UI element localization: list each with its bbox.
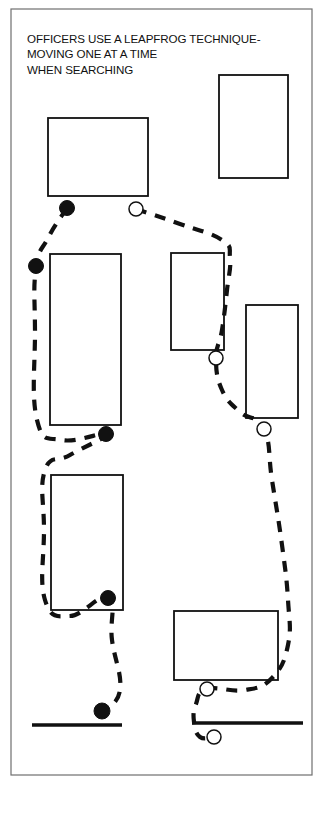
officer-open-5 [207, 730, 221, 744]
officer-open-4 [200, 682, 214, 696]
officer-filled-5 [94, 703, 110, 719]
officer-open-1 [129, 202, 143, 216]
officer-filled-4 [101, 591, 116, 606]
caption-line-3: WHEN SEARCHING [27, 62, 307, 77]
officer-filled-1 [60, 201, 75, 216]
officer-open-2 [209, 351, 223, 365]
officer-filled-3 [99, 427, 114, 442]
building-top-right [219, 75, 288, 178]
building-bottom-right [174, 611, 278, 680]
building-mid-center [171, 253, 224, 350]
building-top-left [48, 118, 148, 196]
building-lower-left [51, 475, 123, 610]
officer-filled-2 [29, 259, 44, 274]
officer-open-3 [257, 422, 271, 436]
building-mid-left [50, 254, 121, 425]
caption-line-1: OFFICERS USE A LEAPFROG TECHNIQUE- [27, 31, 307, 46]
caption-line-2: MOVING ONE AT A TIME [27, 46, 307, 61]
leapfrog-search-diagram: OFFICERS USE A LEAPFROG TECHNIQUE- MOVIN… [0, 0, 325, 818]
building-mid-right [246, 305, 298, 418]
diagram-canvas [0, 0, 325, 818]
diagram-caption: OFFICERS USE A LEAPFROG TECHNIQUE- MOVIN… [27, 31, 307, 77]
